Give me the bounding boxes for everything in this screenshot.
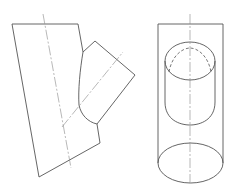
- branch-cylinder-outline: [83, 41, 135, 124]
- branch-centerline: [62, 52, 123, 127]
- main-cylinder-outline: [12, 24, 100, 177]
- technical-drawing: [0, 0, 237, 189]
- intersection-curve: [79, 52, 97, 124]
- front-view: [158, 14, 223, 183]
- bottom-ellipse: [158, 143, 223, 183]
- cylinder-outline: [158, 24, 223, 163]
- side-view: [12, 14, 135, 177]
- main-centerline: [43, 14, 71, 168]
